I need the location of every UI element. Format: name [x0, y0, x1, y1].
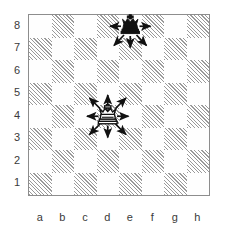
- rank-label-7: 7: [10, 42, 24, 53]
- arrow-d4-to-c3: [90, 124, 101, 135]
- arrow-d4-to-e3: [116, 124, 127, 135]
- rank-label-6: 6: [10, 65, 24, 76]
- rank-label-2: 2: [10, 155, 24, 166]
- file-label-c: c: [74, 212, 97, 223]
- arrow-e8-to-f7: [137, 35, 147, 46]
- file-label-e: e: [119, 212, 142, 223]
- arrow-d4-to-c5: [90, 98, 101, 109]
- chess-diagram: 8 7 6 5 4 3 2 1 a b c d e f g h: [0, 0, 225, 240]
- rank-label-5: 5: [10, 87, 24, 98]
- board-overlay: [29, 15, 211, 197]
- file-label-g: g: [164, 212, 187, 223]
- chess-board: [28, 14, 210, 196]
- arrow-e8-to-d7: [114, 35, 124, 46]
- rank-label-4: 4: [10, 110, 24, 121]
- file-label-b: b: [51, 212, 74, 223]
- rank-label-8: 8: [10, 20, 24, 31]
- file-label-f: f: [141, 212, 164, 223]
- file-label-a: a: [29, 212, 52, 223]
- white-king-piece: [98, 105, 117, 124]
- arrow-d4-to-e5: [116, 98, 127, 109]
- file-label-h: h: [186, 212, 209, 223]
- rank-label-3: 3: [10, 132, 24, 143]
- black-king-piece: [121, 15, 139, 34]
- rank-label-1: 1: [10, 177, 24, 188]
- file-label-d: d: [96, 212, 119, 223]
